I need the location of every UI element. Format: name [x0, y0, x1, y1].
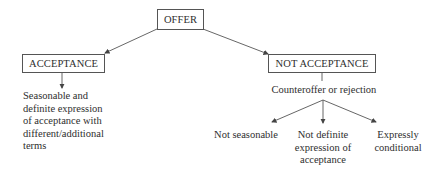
child-not-seasonable: Not seasonable [208, 129, 284, 142]
counteroffer-label: Counteroffer or rejection [264, 84, 384, 97]
offer-box: OFFER [157, 9, 204, 30]
arrow-to-expressly-conditional [323, 100, 376, 122]
arrow-to-not-seasonable [272, 100, 323, 122]
acceptance-box: ACCEPTANCE [22, 54, 105, 73]
arrow-offer-to-not-acceptance [203, 29, 268, 54]
offer-label: OFFER [164, 14, 197, 25]
child-not-definite-expression: Not definite expression of acceptance [288, 129, 358, 167]
not-acceptance-box: NOT ACCEPTANCE [268, 54, 376, 73]
child-expressly-conditional: Expressly conditional [368, 129, 428, 154]
not-acceptance-label: NOT ACCEPTANCE [276, 58, 369, 69]
acceptance-label: ACCEPTANCE [29, 58, 98, 69]
acceptance-description: Seasonable and definite expression of ac… [23, 90, 143, 153]
arrow-offer-to-acceptance [105, 29, 157, 53]
